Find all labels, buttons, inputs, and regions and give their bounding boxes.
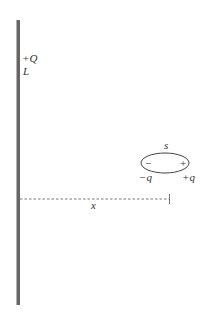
rod-charge-label: +Q xyxy=(22,52,37,64)
dipole-positive-sign: + xyxy=(180,157,186,169)
negative-charge-label: −q xyxy=(139,171,152,183)
diagram: +Q L s − + −q +q x xyxy=(0,0,211,314)
dipole-separation-label: s xyxy=(164,139,168,151)
charged-rod xyxy=(17,20,21,305)
dipole-negative-sign: − xyxy=(145,157,151,169)
distance-label: x xyxy=(90,199,96,211)
rod-length-label: L xyxy=(22,65,29,77)
positive-charge-label: +q xyxy=(182,171,195,183)
